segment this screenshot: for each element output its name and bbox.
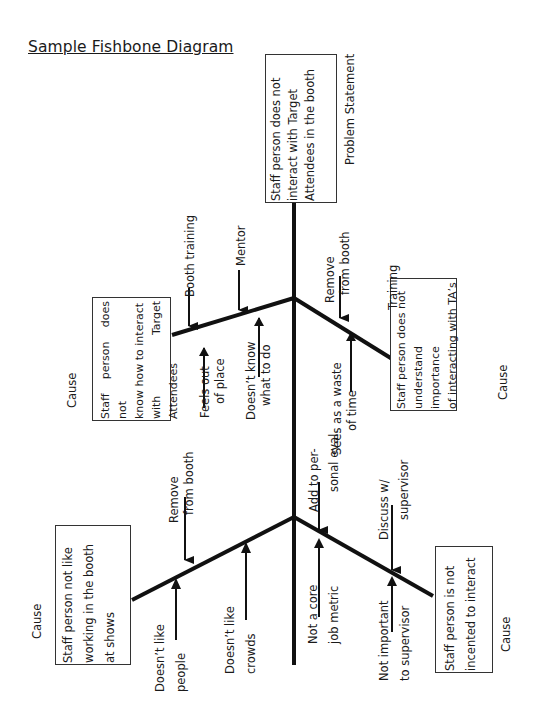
solution-mentor: Mentor xyxy=(234,225,248,266)
reason-doesnt-know-what-to-do: Doesn’t know what to do xyxy=(244,342,274,420)
cause-line: know how to interact xyxy=(131,301,148,419)
cause-box-lower-right: Staff person is not incented to interact xyxy=(435,546,493,673)
cause-label-upper-right: Cause xyxy=(496,365,510,400)
cause-box-upper-left: Staff person does not know how to intera… xyxy=(92,297,171,421)
cause-line: understand importance xyxy=(410,282,444,409)
reason-doesnt-like-crowds: Doesn’t like crowds xyxy=(220,606,262,674)
cause-line: working in the booth xyxy=(79,529,100,663)
cause-box-upper-right: Staff person does not understand importa… xyxy=(390,278,457,411)
problem-line: Attendees in the booth xyxy=(302,58,319,201)
cause-line: Staff person not like xyxy=(58,529,79,663)
cause-box-lower-left: Staff person not like working in the boo… xyxy=(55,525,131,665)
cause-line: at shows xyxy=(100,529,121,663)
solution-booth-training: Booth training xyxy=(183,215,197,297)
problem-statement-label: Problem Statement xyxy=(343,54,357,165)
solution-add-to-personal-eval: Add to per- sonal eval. xyxy=(304,430,344,512)
cause-line: Staff person does not xyxy=(97,301,131,419)
solution-discuss-with-supervisor: Discuss w/ supervisor xyxy=(374,460,414,540)
cause-label-upper-left: Cause xyxy=(65,373,79,408)
cause-line: Staff person is not xyxy=(440,550,461,671)
reason-feels-out-of-place: Feels out of place xyxy=(198,358,228,418)
bone-lower-left xyxy=(132,517,294,600)
reason-not-core-metric: Not a core job metric xyxy=(303,585,345,644)
solution-remove-from-booth-upper: Remove from booth xyxy=(323,231,353,303)
problem-line: Staff person does not xyxy=(268,58,285,201)
cause-line: with Target Attendees xyxy=(148,301,182,419)
cause-label-lower-right: Cause xyxy=(499,617,513,652)
cause-line: of interacting with TA’s xyxy=(444,282,461,409)
bone-upper-left xyxy=(172,298,294,335)
reason-not-important-to-supervisor: Not important to supervisor xyxy=(374,600,416,681)
problem-statement-box: Staff person does not interact with Targ… xyxy=(265,54,337,203)
solution-remove-from-booth-lower: Remove from booth xyxy=(167,451,197,523)
cause-label-lower-left: Cause xyxy=(30,604,44,639)
problem-line: interact with Target xyxy=(285,58,302,201)
reason-doesnt-like-people: Doesn’t like people xyxy=(150,624,192,692)
solution-training: Training xyxy=(386,265,400,310)
cause-line: incented to interact xyxy=(461,550,482,671)
